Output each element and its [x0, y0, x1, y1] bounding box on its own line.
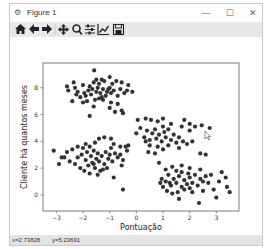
data-point — [98, 91, 102, 95]
data-point — [156, 145, 160, 149]
data-point — [134, 131, 138, 135]
move-icon[interactable] — [58, 24, 69, 35]
data-point — [157, 133, 161, 137]
maximize-button[interactable]: ☐ — [221, 6, 239, 20]
data-point — [114, 79, 118, 83]
data-point — [52, 149, 56, 153]
data-point — [76, 145, 80, 149]
data-point — [145, 129, 149, 133]
data-point — [110, 159, 114, 163]
data-point — [73, 86, 77, 90]
data-point — [130, 90, 134, 94]
minimize-button[interactable]: — — [197, 6, 215, 20]
toolbar-icons — [14, 22, 134, 37]
window-title: Figure 1 — [27, 8, 56, 17]
arrow-left-icon[interactable] — [29, 24, 39, 34]
data-point — [65, 150, 69, 154]
data-point — [121, 188, 125, 192]
data-point — [88, 145, 92, 149]
y-axis-label: Cliente há quantos meses — [20, 85, 29, 189]
data-point — [177, 146, 181, 150]
data-point — [164, 179, 168, 183]
line-chart-icon[interactable] — [98, 24, 109, 35]
data-point — [81, 83, 85, 87]
y-tick-label: 8 — [34, 84, 38, 91]
data-point — [168, 181, 172, 185]
data-point — [169, 122, 173, 126]
data-point — [101, 87, 105, 91]
data-point — [96, 86, 100, 90]
data-point — [105, 166, 109, 170]
zoom-icon[interactable] — [73, 25, 82, 35]
data-point — [112, 88, 116, 92]
data-point — [201, 179, 205, 183]
data-point — [70, 147, 74, 151]
data-point — [177, 174, 181, 178]
data-point — [104, 94, 108, 98]
data-point — [96, 151, 100, 155]
data-point — [161, 125, 165, 129]
data-point — [225, 185, 229, 189]
home-icon[interactable] — [15, 24, 26, 34]
sliders-icon[interactable] — [85, 25, 95, 35]
data-point — [120, 163, 124, 167]
data-point — [198, 151, 202, 155]
x-tick-label: −1 — [105, 214, 114, 221]
data-point — [100, 95, 104, 99]
figure-canvas[interactable]: −3−2−1012302468 Pontuação Cliente há qua… — [10, 37, 262, 236]
data-point — [176, 190, 180, 194]
data-point — [170, 192, 174, 196]
data-point — [93, 141, 97, 145]
data-point — [166, 173, 170, 177]
data-point — [148, 143, 152, 147]
data-point — [125, 88, 129, 92]
data-point — [162, 130, 166, 134]
y-tick-label: 6 — [34, 111, 38, 118]
data-point — [81, 146, 85, 150]
data-point — [121, 158, 125, 162]
data-point — [96, 173, 100, 177]
data-point — [108, 106, 112, 110]
data-point — [84, 94, 88, 98]
data-point — [76, 90, 80, 94]
data-point — [180, 170, 184, 174]
title-bar: ⚙ Figure 1 — ☐ ✕ — [10, 4, 262, 22]
x-tick-label: 2 — [188, 214, 192, 221]
data-point — [217, 179, 221, 183]
data-point — [206, 181, 210, 185]
scatter-plot[interactable]: −3−2−1012302468 Pontuação Cliente há qua… — [10, 37, 262, 236]
data-point — [150, 131, 154, 135]
data-point — [188, 186, 192, 190]
data-point — [68, 159, 72, 163]
data-point — [92, 68, 96, 72]
data-point — [149, 118, 153, 122]
data-point — [125, 149, 129, 153]
data-point — [185, 142, 189, 146]
data-point — [209, 173, 213, 177]
data-point — [84, 142, 88, 146]
data-point — [109, 137, 113, 141]
data-point — [154, 137, 158, 141]
data-point — [212, 188, 216, 192]
data-point — [118, 153, 122, 157]
close-button[interactable]: ✕ — [244, 6, 262, 20]
arrow-right-icon[interactable] — [42, 24, 52, 34]
data-point — [97, 159, 101, 163]
data-point — [86, 88, 90, 92]
data-point — [108, 153, 112, 157]
x-tick-label: 0 — [134, 214, 138, 221]
data-point — [182, 118, 186, 122]
save-icon[interactable] — [114, 25, 124, 35]
data-point — [62, 155, 66, 159]
data-point — [160, 139, 164, 143]
data-point — [93, 166, 97, 170]
data-point — [118, 87, 122, 91]
data-point — [190, 139, 194, 143]
data-point — [201, 189, 205, 193]
data-point — [80, 153, 84, 157]
data-point — [190, 181, 194, 185]
y-tick-label: 4 — [34, 137, 38, 144]
data-point — [100, 154, 104, 158]
data-point — [188, 175, 192, 179]
data-point — [136, 118, 140, 122]
